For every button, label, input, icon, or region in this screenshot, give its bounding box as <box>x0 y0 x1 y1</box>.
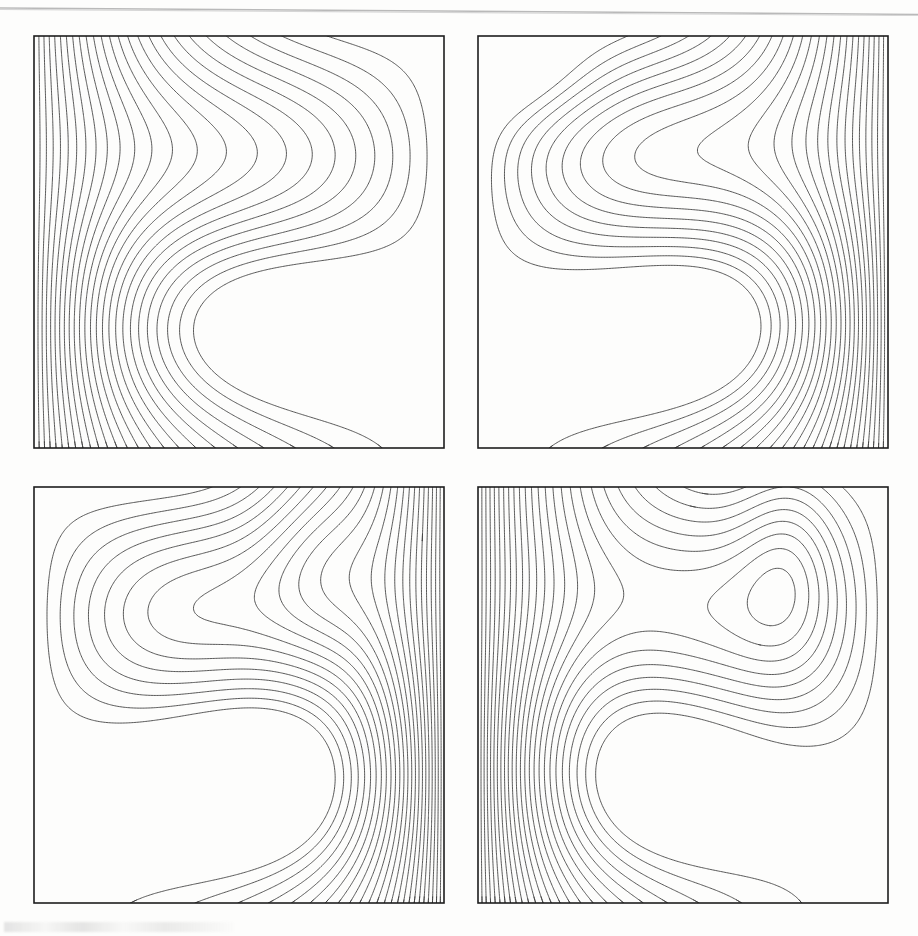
contour-line <box>139 36 336 448</box>
contour-line <box>38 36 40 448</box>
contour-line <box>635 36 821 448</box>
contour-line <box>484 487 486 903</box>
contour-line <box>702 493 708 494</box>
contour-lines-group <box>38 36 427 448</box>
contour-line <box>422 487 424 541</box>
contour-line <box>416 487 426 903</box>
contour-line <box>436 487 439 903</box>
contour-lines-group <box>481 487 877 903</box>
contour-line <box>481 487 482 903</box>
contour-line <box>377 897 379 903</box>
panel-frame <box>34 487 444 903</box>
contour-lines-group <box>491 36 884 448</box>
figure-sheet <box>0 0 918 936</box>
contour-line <box>299 487 396 903</box>
contour-line <box>88 487 358 903</box>
contour-line <box>868 442 869 448</box>
contour-line <box>544 487 623 903</box>
contour-line <box>193 487 381 903</box>
contour-line <box>501 487 511 903</box>
contour-line <box>883 36 885 448</box>
contour-line <box>520 487 544 903</box>
contour-line <box>279 487 391 903</box>
contour-line <box>747 568 795 625</box>
contour-line <box>47 487 335 903</box>
contour-line <box>102 36 197 448</box>
contour-line <box>515 897 516 903</box>
contour-line <box>829 442 831 448</box>
contour-panel-top-left <box>33 35 445 449</box>
contour-line <box>130 36 312 448</box>
contour-line <box>168 36 393 448</box>
panel-frame <box>34 36 444 448</box>
contour-line <box>74 487 351 903</box>
contour-line <box>409 897 410 903</box>
contour-line <box>329 445 332 447</box>
contour-line <box>806 36 846 448</box>
contour-line <box>556 487 828 903</box>
contour-line <box>690 506 695 507</box>
contour-line <box>97 442 99 448</box>
contour-panel-bottom-left <box>33 486 445 904</box>
contour-line <box>580 36 809 448</box>
contour-line <box>596 487 878 903</box>
contour-line <box>577 487 856 903</box>
contour-line <box>106 442 108 448</box>
contour-line <box>79 36 120 448</box>
contour-line <box>371 487 408 903</box>
contour-line <box>431 487 435 903</box>
contour-line <box>510 897 511 903</box>
contour-line <box>180 36 411 448</box>
contour-line <box>491 487 496 903</box>
contour-line <box>504 897 505 903</box>
contour-line <box>64 36 86 448</box>
contour-line <box>546 36 796 448</box>
contour-svg <box>33 35 445 449</box>
contour-line <box>569 487 846 903</box>
contour-panel-top-right <box>477 35 889 449</box>
contour-line <box>115 442 117 448</box>
contour-line <box>90 36 151 448</box>
contour-line <box>398 897 399 903</box>
contour-line <box>586 487 867 903</box>
contour-line <box>414 897 415 903</box>
contour-line <box>82 442 83 448</box>
contour-line <box>42 36 46 448</box>
contour-line <box>774 36 836 448</box>
contour-line <box>290 445 295 448</box>
contour-line <box>85 36 135 448</box>
contour-line <box>541 897 543 903</box>
contour-line <box>656 487 782 508</box>
contour-line <box>157 36 375 448</box>
contour-line <box>878 36 882 448</box>
contour-svg <box>33 486 445 904</box>
contour-lines-group <box>47 487 441 903</box>
contour-line <box>60 487 344 903</box>
contour-line <box>491 36 761 448</box>
contour-line <box>550 487 819 903</box>
contour-line <box>421 541 429 903</box>
contour-panel-grid <box>0 0 918 936</box>
contour-svg <box>477 486 889 904</box>
contour-line <box>487 487 490 903</box>
contour-line <box>60 36 77 448</box>
contour-line <box>440 487 441 903</box>
panel-frame <box>478 487 888 903</box>
contour-line <box>708 549 809 646</box>
contour-line <box>845 36 862 448</box>
contour-line <box>395 487 416 903</box>
contour-line <box>96 36 172 448</box>
contour-line <box>639 900 643 903</box>
contour-svg <box>477 35 889 449</box>
contour-line <box>603 36 815 448</box>
contour-line <box>534 897 536 903</box>
contour-line <box>116 36 258 448</box>
contour-line <box>75 442 76 448</box>
contour-line <box>504 36 771 448</box>
contour-line <box>863 443 864 448</box>
contour-panel-bottom-right <box>477 486 889 904</box>
contour-line <box>859 36 870 448</box>
contour-line <box>518 36 780 448</box>
contour-line <box>419 897 420 903</box>
contour-line <box>529 487 564 903</box>
